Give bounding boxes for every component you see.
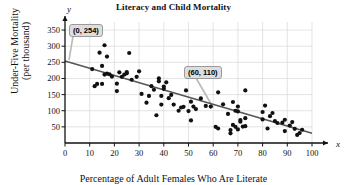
data-point xyxy=(216,90,220,94)
data-point xyxy=(189,118,193,122)
data-point xyxy=(164,80,168,84)
data-point xyxy=(115,89,119,93)
data-point xyxy=(181,105,185,109)
data-point xyxy=(115,82,119,86)
data-point xyxy=(300,128,304,132)
data-point xyxy=(172,103,176,107)
data-point xyxy=(275,121,279,125)
x-tick-label: 60 xyxy=(209,148,218,158)
data-point xyxy=(263,103,267,107)
data-point xyxy=(293,127,297,131)
x-tick-label: 30 xyxy=(135,148,144,158)
data-point xyxy=(283,129,287,133)
data-point xyxy=(152,88,156,92)
y-tick-label: 300 xyxy=(47,41,60,51)
data-point xyxy=(97,51,101,55)
data-point xyxy=(125,70,129,74)
chart-container: Literacy and Child Mortality Under-Five … xyxy=(0,0,347,185)
data-point xyxy=(261,110,265,114)
x-tick-label: 100 xyxy=(306,148,319,158)
x-tick-label: 80 xyxy=(258,148,267,158)
x-tick-label: 10 xyxy=(85,148,94,158)
data-point xyxy=(110,74,114,78)
data-point xyxy=(157,79,161,83)
data-point xyxy=(236,127,240,131)
data-point xyxy=(265,126,269,130)
data-point xyxy=(162,84,166,88)
data-point xyxy=(159,103,163,107)
data-point xyxy=(154,113,158,117)
x-tick-label: 50 xyxy=(184,148,193,158)
data-point xyxy=(159,94,163,98)
x-tick-label: 40 xyxy=(160,148,169,158)
data-point xyxy=(226,112,230,116)
data-point xyxy=(135,75,139,79)
data-point xyxy=(216,126,220,130)
data-point xyxy=(231,100,235,104)
data-point xyxy=(102,43,106,47)
data-point xyxy=(100,64,104,68)
data-point xyxy=(221,102,225,106)
data-point xyxy=(95,82,99,86)
x-axis-label: Percentage of Adult Females Who Are Lite… xyxy=(0,173,347,184)
y-tick-label: 350 xyxy=(47,25,60,35)
data-point xyxy=(243,116,247,120)
data-point xyxy=(184,88,188,92)
data-point xyxy=(209,104,213,108)
y-axis-name: y xyxy=(66,4,71,14)
y-tick-label: 200 xyxy=(47,73,60,83)
y-tick-label: 50 xyxy=(52,122,61,132)
x-tick-label: 0 xyxy=(63,148,67,158)
x-tick-label: 70 xyxy=(234,148,243,158)
data-point xyxy=(149,84,153,88)
data-point xyxy=(238,118,242,122)
data-point xyxy=(243,88,247,92)
data-point xyxy=(283,118,287,122)
annotation-point-1: (60, 110) xyxy=(184,66,222,79)
annotation-point-0: (0, 254) xyxy=(69,24,103,37)
data-point xyxy=(189,100,193,104)
data-point xyxy=(194,107,198,111)
data-point xyxy=(100,82,104,86)
data-point xyxy=(90,67,94,71)
data-point xyxy=(186,109,190,113)
x-axis-arrow xyxy=(323,140,328,145)
data-point xyxy=(117,70,121,74)
y-tick-label: 250 xyxy=(47,57,60,67)
y-axis-arrow xyxy=(62,16,67,21)
data-point xyxy=(243,124,247,128)
y-tick-label: 100 xyxy=(47,106,60,116)
data-point xyxy=(137,69,141,73)
data-point xyxy=(147,94,151,98)
data-point xyxy=(228,128,232,132)
data-point xyxy=(204,104,208,108)
scatter-plot: 0102030405060708090100501001502002503003… xyxy=(0,0,347,185)
data-point xyxy=(130,78,134,82)
x-tick-label: 90 xyxy=(283,148,292,158)
data-point xyxy=(139,92,143,96)
data-point xyxy=(270,111,274,115)
data-point xyxy=(290,120,294,124)
data-point xyxy=(169,93,173,97)
annotation-leader-0 xyxy=(69,36,73,60)
data-point xyxy=(236,109,240,113)
data-point xyxy=(144,101,148,105)
data-point xyxy=(236,104,240,108)
y-tick-label: 150 xyxy=(47,90,60,100)
data-point xyxy=(288,123,292,127)
data-point xyxy=(199,96,203,100)
x-axis-name: x xyxy=(335,139,340,149)
x-tick-label: 20 xyxy=(110,148,119,158)
data-point xyxy=(127,51,131,55)
data-point xyxy=(105,54,109,58)
data-point xyxy=(261,117,265,121)
